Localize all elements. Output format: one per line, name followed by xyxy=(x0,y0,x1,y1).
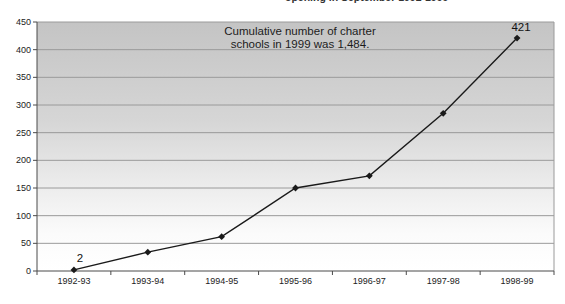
y-axis-tick-label: 150 xyxy=(1,183,31,193)
x-axis-tick-label: 1994-95 xyxy=(192,276,252,286)
data-label-first: 2 xyxy=(65,252,95,264)
y-axis-tick-label: 450 xyxy=(1,17,31,27)
y-axis-tick-label: 350 xyxy=(1,72,31,82)
x-axis-tick-label: 1998-99 xyxy=(487,276,547,286)
y-axis-tick-label: 100 xyxy=(1,211,31,221)
chart-annotation: Cumulative number of charter schools in … xyxy=(184,25,416,50)
y-axis-tick-label: 200 xyxy=(1,155,31,165)
chart-page: opening in September 1992-1999 050100150… xyxy=(0,0,565,304)
x-axis-tick-label: 1995-96 xyxy=(266,276,326,286)
data-label-last: 421 xyxy=(506,21,536,33)
y-axis-tick-label: 50 xyxy=(1,238,31,248)
y-axis-tick-label: 250 xyxy=(1,128,31,138)
y-axis-tick-label: 400 xyxy=(1,45,31,55)
x-axis-tick-label: 1992-93 xyxy=(44,276,104,286)
x-axis-tick-label: 1997-98 xyxy=(413,276,473,286)
y-axis-tick-label: 0 xyxy=(1,266,31,276)
x-axis-tick-label: 1993-94 xyxy=(118,276,178,286)
annotation-line-1: Cumulative number of charter xyxy=(184,25,416,38)
x-axis-tick-label: 1996-97 xyxy=(339,276,399,286)
annotation-line-2: schools in 1999 was 1,484. xyxy=(184,38,416,51)
y-axis-tick-label: 300 xyxy=(1,100,31,110)
